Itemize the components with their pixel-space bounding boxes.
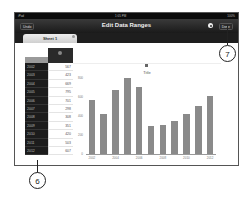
year-cell[interactable]: 2011 (25, 139, 48, 147)
callout-7-leader (227, 25, 228, 45)
close-icon[interactable] (72, 35, 75, 38)
spreadsheet: 2002567200342320046692005795200670120072… (15, 43, 238, 166)
y-axis-tick: 200 (73, 133, 83, 137)
chart-bar (124, 78, 131, 154)
x-axis-tick: 2002 (85, 156, 99, 160)
value-cell[interactable]: 423 (48, 71, 73, 79)
chart-resize-handle[interactable] (145, 64, 148, 67)
year-cell[interactable]: 2004 (25, 80, 48, 88)
bar-chart[interactable]: Title 8006004002000 20022004200620082010… (73, 63, 221, 162)
table-row: 2008308 (25, 113, 73, 121)
page-title: Edit Data Ranges (15, 22, 238, 28)
year-cell[interactable]: 2003 (25, 71, 48, 79)
chart-bar (136, 87, 143, 154)
value-cell[interactable]: 351 (48, 122, 73, 130)
year-cell[interactable]: 2012 (25, 147, 48, 155)
value-cell[interactable]: 503 (48, 139, 73, 147)
chart-title[interactable]: Title (73, 70, 221, 75)
sheet-tabs: Sheet 1 (15, 33, 238, 43)
value-cell[interactable]: 308 (48, 113, 73, 121)
nav-bar: Undo Edit Data Ranges Done (15, 19, 238, 33)
table-row: 2005795 (25, 88, 73, 96)
year-cell[interactable]: 2005 (25, 88, 48, 96)
table-row: 2004669 (25, 80, 73, 88)
x-axis-tick: 2012 (203, 156, 217, 160)
value-cell[interactable]: 795 (48, 88, 73, 96)
value-cell[interactable]: 701 (48, 97, 73, 105)
x-axis-tick: 2010 (179, 156, 193, 160)
tab-sheet-1[interactable]: Sheet 1 (23, 34, 77, 43)
chart-bar (100, 114, 107, 154)
y-axis-tick: 400 (73, 114, 83, 118)
chart-bar (195, 106, 202, 154)
callout-6: 6 (29, 172, 46, 189)
data-table: 2002567200342320046692005795200670120072… (25, 63, 73, 155)
table-row: 2002567 (25, 63, 73, 71)
table-row: 2009351 (25, 122, 73, 130)
table-row: 2012607 (25, 147, 73, 155)
year-cell[interactable]: 2010 (25, 130, 48, 138)
value-cell[interactable]: 567 (48, 63, 73, 71)
y-axis-tick: 800 (73, 76, 83, 80)
table-row: 2006701 (25, 97, 73, 105)
table-row: 2011503 (25, 139, 73, 147)
y-axis-tick: 0 (73, 152, 83, 156)
column-header-b-selected[interactable] (48, 48, 73, 63)
year-cell[interactable]: 2002 (25, 63, 48, 71)
done-button[interactable]: Done (219, 23, 233, 30)
x-axis-tick: 2008 (156, 156, 170, 160)
plot-area (86, 78, 216, 155)
value-cell[interactable]: 298 (48, 105, 73, 113)
chart-bar (183, 114, 190, 154)
x-axis-tick: 2006 (132, 156, 146, 160)
year-cell[interactable]: 2006 (25, 97, 48, 105)
chart-bar (207, 96, 214, 154)
chart-bar (148, 126, 155, 154)
year-cell[interactable]: 2007 (25, 105, 48, 113)
chart-bar (171, 121, 178, 154)
ipad-screen: iPad 1:05 PM 100% Undo Edit Data Ranges … (14, 12, 239, 166)
chart-bar (89, 100, 96, 154)
chart-bar (112, 90, 119, 154)
clock: 1:05 PM (115, 14, 126, 18)
table-row: 2007298 (25, 105, 73, 113)
year-cell[interactable]: 2009 (25, 122, 48, 130)
table-row: 2010420 (25, 130, 73, 138)
table-row: 2003423 (25, 71, 73, 79)
value-cell[interactable]: 420 (48, 130, 73, 138)
chart-bar (160, 125, 167, 154)
value-cell[interactable]: 607 (48, 147, 73, 155)
year-cell[interactable]: 2008 (25, 113, 48, 121)
callout-7: 7 (219, 45, 236, 62)
y-axis-tick: 600 (73, 95, 83, 99)
x-axis-tick: 2004 (109, 156, 123, 160)
gear-icon[interactable] (208, 23, 213, 28)
carrier-label: iPad (18, 14, 24, 18)
battery-label: 100% (227, 14, 235, 18)
tab-label: Sheet 1 (43, 36, 57, 41)
value-cell[interactable]: 669 (48, 80, 73, 88)
